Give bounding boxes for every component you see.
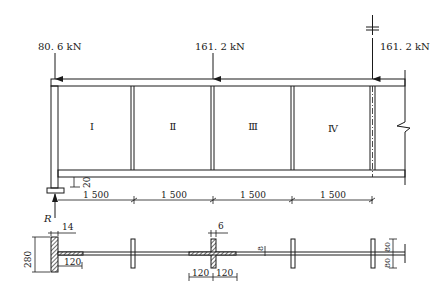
span-label-1: 1 500 bbox=[83, 190, 109, 200]
symmetry-axis-icon bbox=[366, 15, 379, 35]
girder-diagram: 80. 6 kN 161. 2 kN 161. 2 kN I Ⅱ Ⅲ Ⅳ 20 … bbox=[0, 0, 430, 301]
stiffener-4-midspan bbox=[370, 86, 375, 177]
stiffener-width-top-label: 80 bbox=[383, 242, 392, 252]
web-thickness-label: 8 bbox=[256, 246, 265, 251]
end-stiffener-thickness-label: 14 bbox=[62, 222, 74, 232]
stiffener-section-3 bbox=[291, 239, 295, 268]
bearing-plate bbox=[47, 188, 64, 193]
panel-label-4: Ⅳ bbox=[328, 123, 339, 134]
end-stiffener-section bbox=[51, 237, 58, 272]
end-stiffener-height-label: 280 bbox=[23, 251, 33, 268]
end-stiffener bbox=[51, 86, 58, 188]
reaction-label: R bbox=[43, 213, 52, 224]
panel-label-2: Ⅱ bbox=[170, 121, 177, 132]
panel-label-1: I bbox=[90, 121, 94, 132]
end-weld bbox=[58, 252, 83, 255]
mid-weld bbox=[189, 252, 236, 255]
bearing-offset-dimension bbox=[70, 177, 80, 187]
mid-weld-right-label: 120 bbox=[216, 268, 233, 278]
mid-stiffener-thickness-label: 6 bbox=[218, 221, 224, 231]
stiffener-2 bbox=[211, 86, 214, 170]
arrow-up-icon bbox=[52, 193, 58, 202]
break-line bbox=[397, 70, 410, 185]
load-right-label: 161. 2 kN bbox=[380, 41, 430, 52]
dim-280 bbox=[32, 237, 50, 272]
span-label-4: 1 500 bbox=[320, 190, 346, 200]
load-mid-label: 161. 2 kN bbox=[195, 41, 245, 52]
stiffener-3 bbox=[291, 86, 294, 170]
panel-label-3: Ⅲ bbox=[248, 121, 258, 132]
span-label-3: 1 500 bbox=[240, 190, 266, 200]
dim-6 bbox=[208, 230, 228, 237]
mid-weld-left-label: 120 bbox=[192, 268, 209, 278]
reaction-arrow bbox=[52, 193, 58, 218]
top-flange bbox=[51, 79, 405, 86]
stiffener-section-4 bbox=[371, 239, 375, 268]
bearing-offset-label: 20 bbox=[82, 176, 92, 188]
span-label-2: 1 500 bbox=[161, 190, 187, 200]
stiffener-width-bottom-label: 80 bbox=[383, 258, 392, 268]
bottom-flange bbox=[58, 170, 405, 177]
end-weld-length-label: 120 bbox=[64, 257, 81, 267]
stiffener-section-1 bbox=[131, 239, 135, 268]
load-left-label: 80. 6 kN bbox=[38, 41, 82, 52]
stiffener-1 bbox=[131, 86, 134, 170]
